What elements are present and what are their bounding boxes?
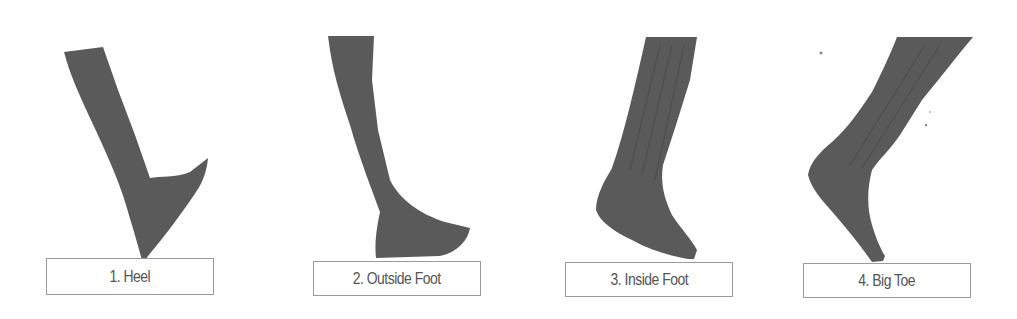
panel-label-inside-foot: 3. Inside Foot [565,262,733,297]
panel-label-big-toe: 4. Big Toe [803,263,971,298]
leg-outside-foot-illustration [328,36,470,258]
label-text: 1. Heel [110,267,151,287]
panel-label-outside-foot: 2. Outside Foot [313,261,481,296]
label-text: 4. Big Toe [859,271,916,291]
leg-heel-illustration [64,47,208,264]
panel-label-heel: 1. Heel [46,258,214,295]
leg-inside-foot-illustration [596,37,697,259]
leg-big-toe-illustration [808,37,973,262]
label-text: 3. Inside Foot [610,270,688,290]
foot-contact-diagram: 1. Heel 2. Outside Foot 3. Inside Foot 4… [0,0,1017,319]
label-text: 2. Outside Foot [353,269,441,289]
